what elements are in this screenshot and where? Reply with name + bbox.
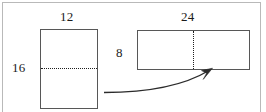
diagram-canvas: 12 16 8 24 bbox=[0, 0, 266, 112]
wide-rectangle-height-label: 8 bbox=[116, 46, 123, 59]
tall-rectangle-height-label: 16 bbox=[12, 61, 25, 74]
wide-rectangle-vertical-dotted-bisector bbox=[193, 31, 194, 69]
tall-rectangle-horizontal-dotted-bisector bbox=[41, 68, 97, 69]
wide-rectangle-width-label: 24 bbox=[181, 10, 194, 23]
tall-rectangle bbox=[40, 29, 98, 109]
tall-rectangle-width-label: 12 bbox=[60, 10, 73, 23]
